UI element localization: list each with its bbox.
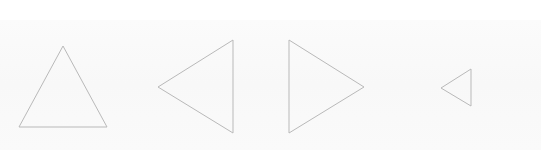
- diagram-canvas: [0, 0, 541, 166]
- triangle-left-small-icon: [441, 69, 471, 106]
- triangle-right-icon: [289, 40, 364, 133]
- triangle-left-icon: [158, 40, 233, 133]
- triangle-up-icon: [19, 46, 107, 127]
- triangles-figure: [0, 0, 541, 166]
